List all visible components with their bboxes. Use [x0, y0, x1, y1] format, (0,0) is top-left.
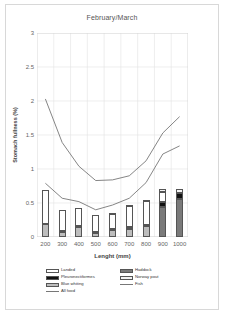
y-tick-label: 1	[31, 166, 34, 172]
bar-segment	[126, 227, 133, 229]
legend-entry: Fish	[120, 281, 192, 288]
bar-segment	[159, 202, 166, 207]
y-tick-label: 2	[31, 98, 34, 104]
legend-color-swatch	[120, 276, 133, 280]
legend-line-swatch	[46, 291, 59, 292]
y-tick-label: 0.5	[26, 200, 34, 206]
bar-segment	[159, 192, 166, 202]
y-axis-title: Stomach fullness (%)	[12, 107, 18, 163]
legend-entry: Haddock	[120, 267, 192, 274]
bar-segment	[143, 225, 150, 227]
bar-segment	[126, 229, 133, 237]
legend-color-swatch	[46, 276, 59, 280]
x-axis-title: Lenght (mm)	[37, 253, 188, 259]
bar-segment	[176, 189, 183, 194]
legend-entry: All food	[46, 288, 118, 295]
bar-segment	[159, 207, 166, 237]
bar-segment	[59, 231, 66, 233]
x-tick-label: 400	[74, 241, 84, 247]
x-tick-label: 700	[124, 241, 134, 247]
bar-segment	[176, 193, 183, 198]
bar-segment	[59, 210, 66, 231]
legend-entry: Blue whiting	[46, 281, 118, 288]
legend-color-swatch	[120, 269, 133, 273]
x-tick-label: 600	[107, 241, 117, 247]
legend-label: Norway pout	[135, 275, 159, 279]
bar-segment	[75, 208, 82, 226]
legend-line-swatch	[120, 284, 133, 285]
x-tick-label: 200	[40, 241, 50, 247]
y-tick-label: 2.5	[26, 64, 34, 70]
bar-segment	[75, 227, 82, 237]
bar-segment	[109, 214, 116, 229]
bar-segment	[42, 224, 49, 237]
bar-segment	[92, 232, 99, 234]
bar-segment	[75, 226, 82, 228]
bar-segment	[126, 206, 133, 227]
legend-entry: Landed	[46, 267, 118, 274]
bar-segment	[126, 205, 133, 207]
x-tick-label: 300	[57, 241, 67, 247]
bar-segment	[109, 229, 116, 231]
bar-segment	[92, 215, 99, 232]
y-tick-label: 3	[31, 30, 34, 36]
legend-label: Landed	[61, 268, 75, 272]
x-tick-label: 1000	[173, 241, 186, 247]
chart-title: February/March	[6, 14, 218, 21]
legend-label: All food	[61, 289, 75, 293]
legend-label: Blue whiting	[61, 282, 84, 286]
x-tick-label: 900	[158, 241, 168, 247]
plot-area: 00.511.522.53 20030040050060070080090010…	[37, 33, 188, 237]
chart-figure: February/March Stomach fullness (%) 00.5…	[5, 4, 219, 310]
bar-segment	[143, 225, 150, 237]
bar-segment	[42, 190, 49, 224]
legend-entry: Pleuronectiformes	[46, 274, 118, 281]
legend-color-swatch	[46, 269, 59, 273]
bar-segment	[176, 199, 183, 237]
bar-segment	[109, 230, 116, 237]
legend-label: Pleuronectiformes	[61, 275, 95, 279]
bar-segment	[143, 200, 150, 202]
legend-color-swatch	[46, 283, 59, 287]
x-tick-label: 500	[91, 241, 101, 247]
legend-label: Haddock	[135, 268, 152, 272]
chart-legend: LandedHaddockPleuronectiformesNorway pou…	[46, 267, 196, 295]
bar-segment	[109, 213, 116, 215]
bar-segment	[159, 189, 166, 192]
bar-segment	[143, 201, 150, 225]
legend-entry: Norway pout	[120, 274, 192, 281]
y-tick-label: 0	[31, 234, 34, 240]
legend-label: Fish	[135, 282, 143, 286]
y-tick-label: 1.5	[26, 132, 34, 138]
x-tick-label: 800	[141, 241, 151, 247]
